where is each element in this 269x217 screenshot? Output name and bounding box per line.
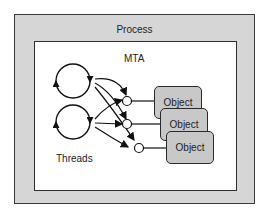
- threads-label: Threads: [56, 153, 93, 164]
- thread-2-icon: [56, 105, 90, 139]
- thread-1-icon: [56, 64, 90, 98]
- interface-2-icon: [123, 120, 132, 129]
- interface-1-icon: [123, 97, 132, 106]
- thread-arrows: [0, 0, 269, 217]
- object-3: Object: [166, 131, 214, 164]
- interface-3-icon: [135, 144, 144, 153]
